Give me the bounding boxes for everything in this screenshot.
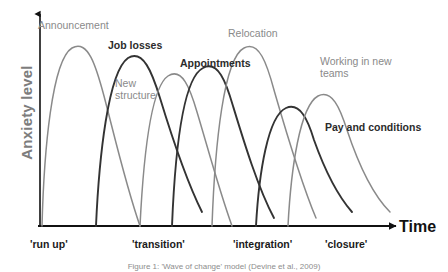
phase-label-transition: 'transition' (132, 238, 185, 250)
figure-caption: Figure 1: 'Wave of change' model (Devine… (0, 262, 448, 271)
curve-announcement (42, 46, 140, 226)
curve-label-working-in-new-teams: Working in new teams (320, 55, 392, 79)
curve-label-relocation: Relocation (228, 27, 278, 39)
x-axis-title: Time (399, 218, 436, 236)
y-axis-title: Anxiety level (18, 59, 35, 167)
curve-label-appointments: Appointments (180, 57, 251, 69)
curve-label-announcement: Announcement (38, 19, 109, 31)
curve-label-pay-and-conditions: Pay and conditions (325, 121, 421, 133)
chart-plot-area (0, 0, 448, 272)
phase-label-run-up: 'run up' (30, 238, 68, 250)
curve-label-new-structure: New structure (115, 77, 156, 101)
phase-label-integration: 'integration' (233, 238, 292, 250)
figure-wave-of-change: Anxiety level Time Announcement Job loss… (0, 0, 448, 272)
curve-appointments (172, 66, 274, 226)
phase-label-closure: 'closure' (325, 238, 367, 250)
curve-label-job-losses: Job losses (108, 39, 162, 51)
